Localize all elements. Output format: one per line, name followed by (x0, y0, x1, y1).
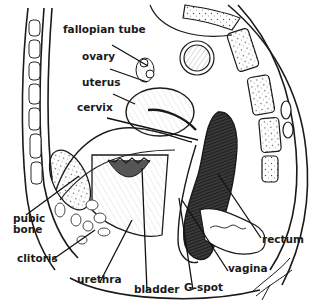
label-rectum: rectum (262, 234, 304, 245)
leader-line-clitoris (52, 230, 95, 260)
label-vagina: vagina (228, 263, 268, 274)
anatomy-diagram: fallopian tubeovaryuteruscervixpubic bon… (0, 0, 318, 308)
uterus-shape (126, 88, 196, 136)
label-ovary: ovary (82, 51, 115, 62)
label-cervix: cervix (77, 102, 113, 113)
leader-line-fallopian-tube (112, 45, 148, 66)
label-g-spot: G-spot (184, 282, 223, 293)
label-fallopian-tube: fallopian tube (63, 24, 146, 35)
label-uterus: uterus (82, 77, 121, 88)
label-pubic-bone: pubic bone (13, 213, 45, 235)
label-urethra: urethra (77, 274, 122, 285)
label-bladder: bladder (134, 284, 180, 295)
sacrum-vertebrae (183, 5, 293, 182)
label-clitoris: clitoris (17, 253, 58, 264)
